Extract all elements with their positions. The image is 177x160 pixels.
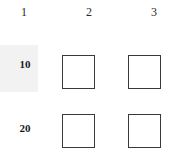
cell-box-row20-col3[interactable]: [128, 114, 161, 148]
column-header-2: 2: [78, 5, 100, 19]
grid-figure: 1 2 3 10 20: [0, 0, 177, 160]
cell-box-row10-col3[interactable]: [128, 55, 161, 89]
row-label-20: 20: [12, 122, 38, 135]
row-label-10: 10: [12, 58, 38, 71]
cell-box-row20-col2[interactable]: [62, 114, 95, 148]
cell-box-row10-col2[interactable]: [62, 55, 95, 89]
column-header-3: 3: [143, 5, 165, 19]
column-header-1: 1: [13, 5, 35, 19]
